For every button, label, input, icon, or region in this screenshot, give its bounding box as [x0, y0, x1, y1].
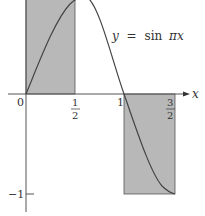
tick-label-three-half-num: 3	[167, 97, 173, 108]
x-axis-label: x	[192, 87, 199, 101]
tick-label-origin: 0	[17, 96, 24, 109]
tick-label-half-num: 1	[72, 97, 78, 108]
tick-label-neg-one: −1	[8, 188, 24, 201]
rectangle-left	[26, 0, 75, 94]
function-label: y = sin πx	[111, 29, 184, 43]
tick-label-three-half-den: 2	[167, 110, 173, 121]
tick-label-one: 1	[117, 96, 124, 109]
riemann-diagram: y = sin πx x 0 1 2 1 3 2 −1	[0, 0, 205, 216]
x-axis-arrow-icon	[183, 92, 190, 97]
tick-label-half-den: 2	[72, 110, 78, 121]
